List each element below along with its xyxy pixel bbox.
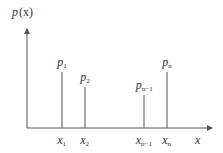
stem-probability-label: pn bbox=[161, 55, 172, 70]
stem-x-label: x2 bbox=[79, 133, 89, 148]
stems: p1x1p2x2pn−1xn−1pnxn bbox=[56, 55, 172, 148]
stem-probability-label: p2 bbox=[79, 70, 90, 85]
stem-probability-label: pn−1 bbox=[135, 78, 153, 93]
y-axis-label-base: p bbox=[11, 5, 18, 19]
y-axis-label: p(x) bbox=[11, 5, 33, 19]
stem-x-label: xn bbox=[161, 133, 171, 148]
stem-x-label: xn−1 bbox=[135, 133, 153, 148]
probability-distribution-diagram: p(x) x p1x1p2x2pn−1xn−1pnxn bbox=[0, 0, 223, 153]
stem-x-label: x1 bbox=[56, 133, 66, 148]
y-axis-label-rest: (x) bbox=[19, 5, 33, 19]
stem-probability-label: p1 bbox=[56, 55, 67, 70]
x-axis-label: x bbox=[194, 133, 201, 147]
